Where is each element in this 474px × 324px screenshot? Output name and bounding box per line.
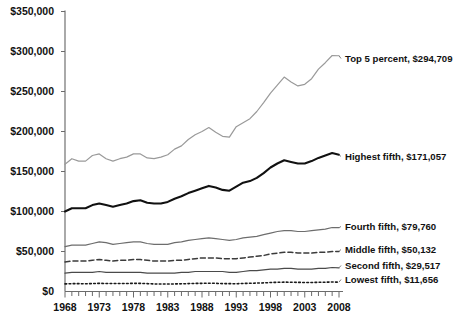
y-axis-tick-label-group: $0$50,000$100,000$150,000$200,000$250,00… [10, 5, 54, 297]
y-axis-tick-label: $0 [42, 285, 54, 297]
series-leader-line [339, 266, 341, 268]
x-axis-tick-label: 1978 [122, 301, 146, 313]
series-leader-line-group [339, 56, 341, 282]
series-line [65, 56, 339, 165]
x-axis-tick-label: 1998 [259, 301, 283, 313]
x-axis-tick-label: 1993 [225, 301, 249, 313]
series-label: Second fifth, $29,517 [345, 260, 440, 271]
series-line [65, 153, 339, 211]
y-axis-tick-mark-group [61, 12, 65, 252]
y-axis-tick-label: $150,000 [10, 165, 54, 177]
series-line [65, 268, 339, 274]
series-line [65, 251, 339, 262]
series-label-group: Top 5 percent, $294,709Highest fifth, $1… [345, 53, 453, 285]
series-label: Highest fifth, $171,057 [345, 151, 446, 162]
x-axis-tick-label: 1968 [53, 301, 77, 313]
y-axis-tick-label: $300,000 [10, 45, 54, 57]
income-quintile-line-chart: $0$50,000$100,000$150,000$200,000$250,00… [0, 0, 474, 324]
series-leader-line [339, 250, 341, 252]
x-axis-tick-label: 1988 [190, 301, 214, 313]
y-axis-tick-label: $200,000 [10, 125, 54, 137]
series-line-group [65, 56, 339, 285]
y-axis-tick-label: $100,000 [10, 205, 54, 217]
y-axis-tick-label: $350,000 [10, 5, 54, 17]
x-axis-tick-label: 2003 [293, 301, 317, 313]
y-axis-tick-label: $50,000 [16, 245, 54, 257]
series-line [65, 282, 339, 284]
series-label: Lowest fifth, $11,656 [345, 274, 438, 285]
series-leader-line [339, 56, 341, 59]
x-axis-tick-label: 1973 [88, 301, 112, 313]
series-label: Middle fifth, $50,132 [345, 244, 436, 255]
x-axis-tick-label: 1983 [156, 301, 180, 313]
x-axis-tick-label-group: 196819731978198319881993199820032008 [53, 301, 351, 313]
series-leader-line [339, 155, 341, 157]
series-leader-line [339, 280, 341, 283]
y-axis-tick-label: $250,000 [10, 85, 54, 97]
chart-canvas: $0$50,000$100,000$150,000$200,000$250,00… [0, 0, 474, 324]
x-axis-tick-mark-group [65, 292, 339, 298]
x-axis-tick-label: 2008 [327, 301, 351, 313]
series-line [65, 228, 339, 247]
series-label: Fourth fifth, $79,760 [345, 221, 436, 232]
series-leader-line [339, 227, 341, 228]
series-label: Top 5 percent, $294,709 [345, 53, 453, 64]
